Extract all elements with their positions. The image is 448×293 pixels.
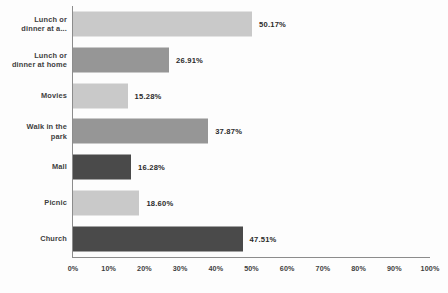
category-label: Lunch or dinner at a...	[0, 15, 67, 34]
bar-value-label: 16.28%	[138, 163, 165, 172]
x-tick-label: 90%	[387, 264, 402, 273]
bar-value-label: 47.51%	[250, 234, 277, 243]
bar	[73, 83, 128, 108]
bar	[73, 119, 208, 144]
bar-value-label: 26.91%	[176, 55, 203, 64]
category-label: Movies	[0, 91, 67, 100]
x-axis-line	[72, 257, 430, 258]
x-tick-label: 80%	[351, 264, 366, 273]
bar-chart: Lunch or dinner at a...50.17%Lunch or di…	[0, 0, 448, 293]
x-axis-ticks: 0%10%20%30%40%50%60%70%80%90%100%	[0, 264, 448, 278]
bar	[73, 155, 131, 180]
bar-value-label: 50.17%	[259, 19, 286, 28]
category-label: Mall	[0, 163, 67, 172]
x-tick-label: 30%	[173, 264, 188, 273]
x-tick-label: 20%	[137, 264, 152, 273]
bar	[73, 226, 243, 251]
x-tick-label: 100%	[421, 264, 440, 273]
x-tick-label: 70%	[316, 264, 331, 273]
bar	[73, 11, 252, 36]
x-tick-label: 40%	[208, 264, 223, 273]
bar-value-label: 15.28%	[135, 91, 162, 100]
bar	[73, 191, 139, 216]
x-tick-label: 60%	[280, 264, 295, 273]
bar	[73, 47, 169, 72]
category-label: Picnic	[0, 198, 67, 207]
category-label: Walk in the park	[0, 122, 67, 141]
bar-value-label: 18.60%	[146, 199, 173, 208]
bar-row: Mall16.28%	[0, 149, 448, 185]
x-tick-label: 0%	[68, 264, 79, 273]
bar-row: Lunch or dinner at home26.91%	[0, 42, 448, 78]
x-tick-label: 10%	[101, 264, 116, 273]
category-label: Lunch or dinner at home	[0, 50, 67, 69]
bar-value-label: 37.87%	[215, 127, 242, 136]
bar-row: Walk in the park37.87%	[0, 114, 448, 150]
bar-row: Lunch or dinner at a...50.17%	[0, 6, 448, 42]
bar-row: Movies15.28%	[0, 78, 448, 114]
chart-rows: Lunch or dinner at a...50.17%Lunch or di…	[0, 6, 448, 257]
bar-row: Church47.51%	[0, 221, 448, 257]
bar-row: Picnic18.60%	[0, 185, 448, 221]
category-label: Church	[0, 234, 67, 243]
x-tick-label: 50%	[244, 264, 259, 273]
